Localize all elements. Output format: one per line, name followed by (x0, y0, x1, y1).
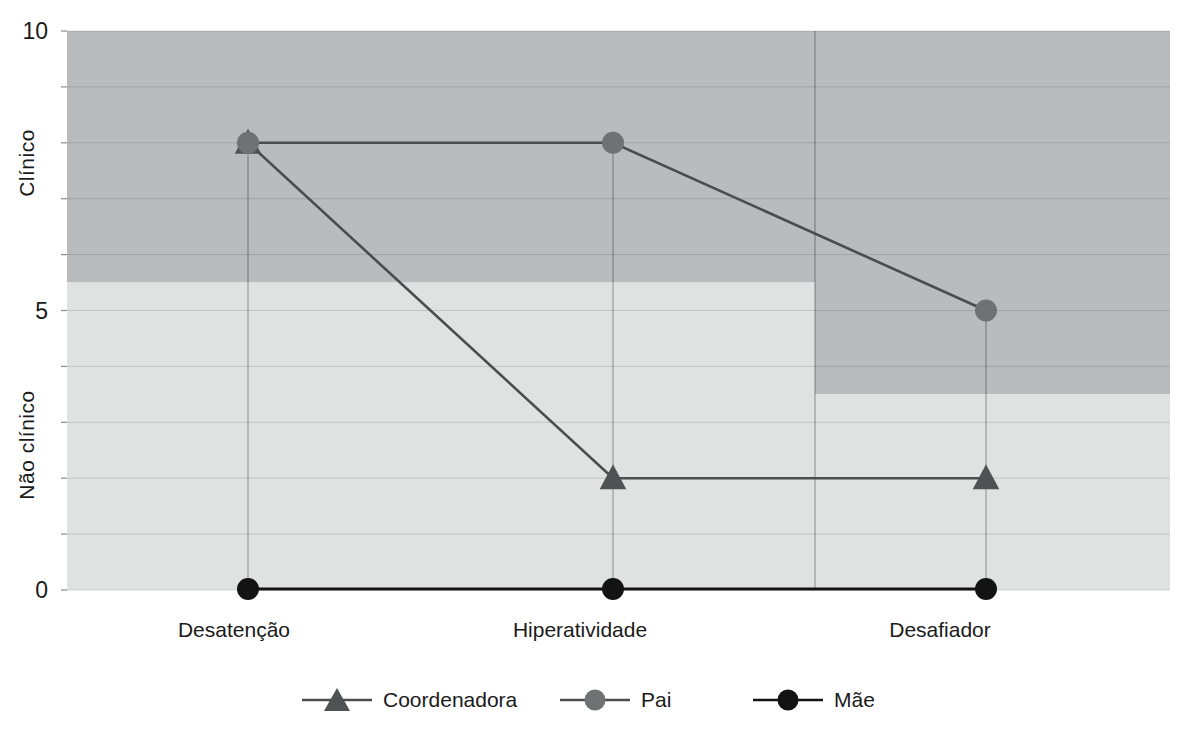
y-zone-label-nao-clinico: Não clínico (15, 390, 39, 499)
y-tick-label-10: 10 (0, 17, 48, 45)
y-tick-label-0: 0 (0, 576, 48, 604)
x-axis-label-desatencao: Desatenção (104, 618, 364, 642)
plot-area (0, 0, 1189, 640)
y-zone-label-clinico: Clínico (15, 129, 39, 197)
y-tick-label-5: 5 (0, 297, 48, 325)
x-axis-label-hiperatividade: Hiperatividade (450, 618, 710, 642)
legend-label-pai: Pai (641, 686, 671, 714)
legend-label-coordenadora: Coordenadora (383, 686, 517, 714)
legend-label-mae: Mãe (834, 686, 875, 714)
circle-marker-icon (560, 686, 630, 714)
adhd-rating-line-chart: 10 5 0 Clínico Não clínico Desatenção Hi… (0, 0, 1189, 735)
x-axis-label-desafiador: Desafiador (810, 618, 1070, 642)
legend-item-pai: Pai (560, 686, 671, 714)
legend-item-coordenadora: Coordenadora (302, 686, 517, 714)
circle-marker-icon (753, 686, 823, 714)
legend-item-mae: Mãe (753, 686, 875, 714)
triangle-marker-icon (302, 686, 372, 714)
